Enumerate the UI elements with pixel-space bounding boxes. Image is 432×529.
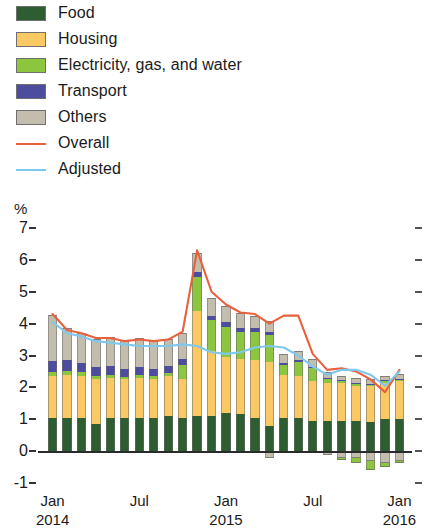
y-axis-unit-label: % [14, 200, 27, 217]
y-axis-tick-mark [29, 418, 36, 420]
legend-food-label: Food [58, 4, 95, 22]
y-axis-tick-label: 1 [19, 410, 28, 428]
line-series-layer [40, 228, 410, 489]
legend-electricity-gas-water-swatch-icon [16, 58, 46, 73]
legend-food-swatch-icon [16, 6, 46, 21]
x-axis: Jan2014JulJan2015JulJan2016 [0, 491, 432, 529]
y-axis-tick-mark-right [415, 291, 422, 293]
legend-others-label: Others [58, 108, 107, 126]
y-axis-tick-mark-right [415, 482, 422, 484]
legend-housing[interactable]: Housing [16, 26, 432, 52]
x-axis-month: Jan [383, 491, 416, 510]
y-axis-tick-mark-right [415, 418, 422, 420]
legend-transport-label: Transport [58, 82, 127, 100]
x-axis-month: Jan [36, 491, 69, 510]
legend-transport[interactable]: Transport [16, 78, 432, 104]
y-axis-tick-label: 7 [19, 219, 28, 237]
x-axis-year: 2015 [209, 510, 242, 529]
legend-electricity-gas-water[interactable]: Electricity, gas, and water [16, 52, 432, 78]
y-axis-tick-label: 2 [19, 378, 28, 396]
x-axis-tick-label: Jan2014 [36, 491, 69, 529]
chart-legend: FoodHousingElectricity, gas, and waterTr… [0, 0, 432, 190]
line-series-adjusted [53, 322, 400, 386]
x-axis-year: 2014 [36, 510, 69, 529]
y-axis-tick-mark-right [415, 450, 422, 452]
y-axis-tick-mark [29, 323, 36, 325]
y-axis-tick-mark [29, 355, 36, 357]
chart-plot-area: 76543210-1 Jan2014JulJan2015JulJan2016 [0, 228, 432, 523]
y-axis-tick-mark-right [415, 227, 422, 229]
y-axis-tick-mark-right [415, 259, 422, 261]
legend-adjusted[interactable]: Adjusted [16, 156, 432, 182]
y-axis-tick-label: 4 [19, 315, 28, 333]
x-axis-month: Jul [130, 491, 149, 510]
legend-housing-label: Housing [58, 30, 117, 48]
legend-others[interactable]: Others [16, 104, 432, 130]
y-axis-tick-label: 6 [19, 251, 28, 269]
legend-adjusted-label: Adjusted [58, 160, 121, 178]
x-axis-tick-label: Jul [130, 491, 149, 510]
y-axis-tick-mark [29, 450, 36, 452]
y-axis-tick-mark-right [415, 355, 422, 357]
x-axis-year: 2016 [383, 510, 416, 529]
y-axis-tick-mark [29, 482, 36, 484]
y-axis-tick-label: 0 [19, 442, 28, 460]
x-axis-month: Jul [303, 491, 322, 510]
legend-adjusted-line-icon [16, 162, 46, 177]
y-axis-tick-mark [29, 291, 36, 293]
y-axis-tick-label: 5 [19, 283, 28, 301]
x-axis-tick-label: Jul [303, 491, 322, 510]
legend-overall-line-icon [16, 136, 46, 151]
y-axis-tick-mark [29, 259, 36, 261]
y-axis-tick-mark-right [415, 323, 422, 325]
x-axis-tick-label: Jan2015 [209, 491, 242, 529]
legend-others-swatch-icon [16, 110, 46, 125]
legend-overall[interactable]: Overall [16, 130, 432, 156]
legend-electricity-gas-water-label: Electricity, gas, and water [58, 56, 242, 74]
x-axis-month: Jan [209, 491, 242, 510]
x-axis-tick-label: Jan2016 [383, 491, 416, 529]
legend-transport-swatch-icon [16, 84, 46, 99]
legend-housing-swatch-icon [16, 32, 46, 47]
y-axis-tick-mark [29, 386, 36, 388]
y-axis-tick-mark-right [415, 386, 422, 388]
y-axis-tick-mark [29, 227, 36, 229]
legend-food[interactable]: Food [16, 0, 432, 26]
legend-overall-label: Overall [58, 134, 109, 152]
y-axis: 76543210-1 [0, 228, 40, 483]
y-axis-tick-label: -1 [14, 474, 28, 492]
y-axis-tick-label: 3 [19, 347, 28, 365]
